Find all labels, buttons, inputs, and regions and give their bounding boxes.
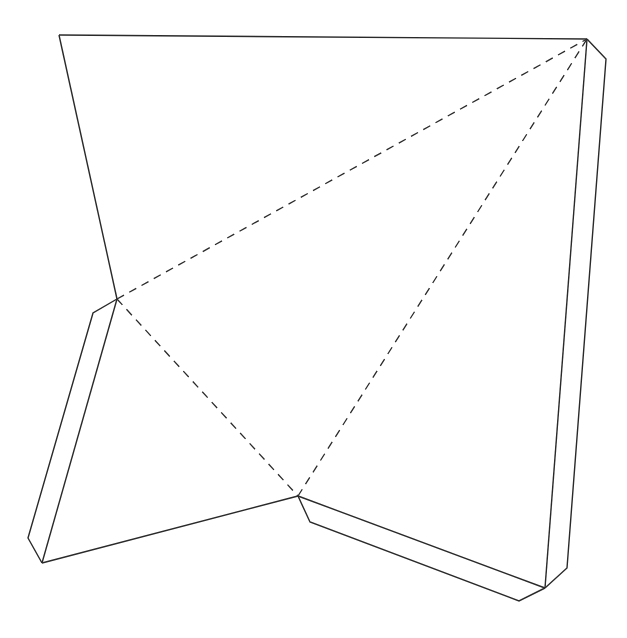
top-edge xyxy=(59,35,587,39)
fold-left-to-bottom-center xyxy=(117,299,298,496)
top-left-edge xyxy=(59,35,117,299)
right-glue-tab xyxy=(545,39,606,588)
fold-left-to-top-right xyxy=(117,39,587,299)
bottom-glue-tab xyxy=(298,496,545,601)
fold-bottom-center-to-top-right xyxy=(298,39,587,496)
bottom-tab-fold-edge xyxy=(298,496,545,588)
left-tab-fold-edge xyxy=(42,299,117,563)
net-diagram xyxy=(0,0,627,638)
bottom-left-edge xyxy=(42,496,298,563)
right-tab-fold-edge xyxy=(545,39,587,588)
left-glue-tab xyxy=(28,299,117,563)
